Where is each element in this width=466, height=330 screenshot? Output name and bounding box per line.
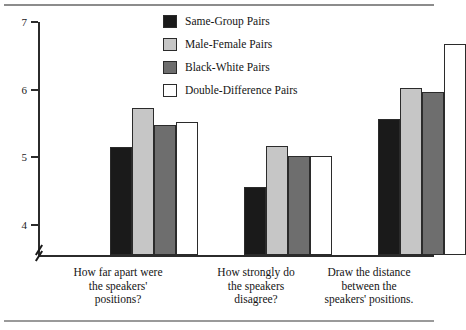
y-axis-line [38, 22, 40, 257]
bar [422, 92, 444, 255]
bar [176, 122, 198, 255]
plot-area: 4567 [38, 22, 434, 257]
bar [132, 108, 154, 255]
y-tick-6: 6 [31, 89, 38, 91]
y-tick-4: 4 [31, 224, 38, 226]
category-label-line: How far apart were [38, 266, 198, 280]
bar [444, 44, 466, 255]
bar-group-2 [244, 22, 332, 255]
category-label-line: between the [300, 280, 438, 294]
y-tick-label-4: 4 [22, 219, 28, 230]
category-label-line: the speakers' [38, 280, 198, 294]
bar [244, 187, 266, 255]
bar [400, 88, 422, 255]
category-label-line: speakers' positions. [300, 293, 438, 307]
bar-group-1 [110, 22, 198, 255]
category-label-line: Draw the distance [300, 266, 438, 280]
y-tick-5: 5 [31, 156, 38, 158]
bar-group-3 [378, 22, 466, 255]
bottom-rule [4, 320, 434, 322]
y-tick-label-5: 5 [22, 152, 28, 163]
bar [110, 147, 132, 255]
bar [266, 146, 288, 255]
category-label-line: positions? [38, 293, 198, 307]
top-rule [4, 4, 434, 6]
axis-break-icon [32, 245, 46, 261]
category-label-3: Draw the distancebetween thespeakers' po… [300, 266, 438, 307]
category-label-1: How far apart werethe speakers'positions… [38, 266, 198, 307]
bar [154, 125, 176, 255]
bar [378, 119, 400, 255]
y-tick-7: 7 [31, 21, 38, 23]
bar [310, 156, 332, 255]
y-tick-label-6: 6 [22, 84, 28, 95]
x-axis-line [38, 255, 434, 257]
bar [288, 156, 310, 255]
y-tick-label-7: 7 [22, 17, 28, 28]
